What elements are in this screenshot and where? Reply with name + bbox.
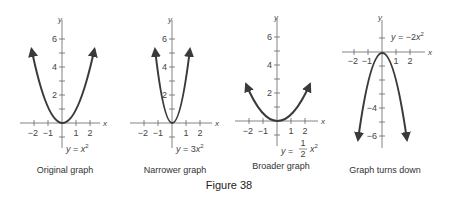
x-tick-label: −1	[153, 128, 163, 138]
y-tick-label: 6	[162, 34, 167, 44]
x-tick-label: 2	[407, 56, 412, 66]
parabola-curve	[246, 84, 310, 121]
fraction-denominator: 2	[300, 149, 305, 159]
x-tick-label: 2	[302, 126, 307, 136]
x-tick-label: −2	[243, 126, 253, 136]
x-tick-label: 1	[288, 126, 293, 136]
graph-caption: Broader graph	[252, 161, 310, 171]
y-tick-label: 4	[267, 60, 272, 70]
graph-turns-down: −2 −1 1 2 −4 −6 x y y = −2x2 Graph turns…	[342, 13, 433, 175]
x-tick-label: −1	[258, 126, 268, 136]
graph-broader: −2 −1 1 2 2 4 6 x y y = 1 2 x2 Broader g…	[235, 13, 326, 171]
equation-label: y = −2x2	[390, 31, 425, 42]
x-tick-label: 1	[393, 56, 398, 66]
y-tick-label: 2	[267, 88, 272, 98]
x-tick-label: −1	[362, 56, 372, 66]
y-tick-label: 2	[52, 90, 57, 100]
x-axis-label: x	[320, 117, 326, 126]
x-axis-label: x	[427, 48, 433, 57]
x-tick-label: 2	[87, 128, 92, 138]
x-tick-label: 2	[197, 128, 202, 138]
equation-label: y = 3x2	[175, 143, 204, 154]
equation-label: y = x2	[65, 143, 89, 154]
x-tick-label: −2	[348, 56, 358, 66]
y-tick-label: 4	[52, 62, 57, 72]
y-tick-label: 4	[162, 62, 167, 72]
x-axis-label: x	[102, 119, 108, 128]
y-tick-label: −6	[367, 131, 377, 141]
fraction-numerator: 1	[300, 138, 305, 148]
x-tick-label: −1	[43, 128, 53, 138]
equation-label: y =	[280, 146, 293, 156]
x-axis-label: x	[214, 119, 220, 128]
y-axis-label: y	[273, 13, 279, 22]
x-tick-label: 1	[73, 128, 78, 138]
parabola-curve	[155, 49, 190, 123]
figure-canvas: −2 −1 1 2 2 4 6 x y y = x2 Original grap…	[0, 0, 457, 198]
y-tick-label: −4	[367, 103, 377, 113]
y-tick-label: 6	[52, 34, 57, 44]
graph-original: −2 −1 1 2 2 4 6 x y y = x2 Original grap…	[20, 15, 108, 175]
equation-var: x2	[309, 143, 319, 154]
graph-caption: Narrower graph	[144, 165, 207, 175]
graph-narrower: −2 −1 1 2 2 4 6 x y y = 3x2 Narrower gra…	[130, 15, 220, 175]
x-tick-label: −2	[28, 128, 38, 138]
graph-caption: Graph turns down	[349, 165, 421, 175]
figure-title: Figure 38	[206, 179, 252, 191]
x-tick-label: 1	[183, 128, 188, 138]
x-tick-label: −2	[138, 128, 148, 138]
y-tick-label: 6	[267, 32, 272, 42]
parabola-curve	[32, 49, 95, 123]
graph-caption: Original graph	[37, 165, 94, 175]
